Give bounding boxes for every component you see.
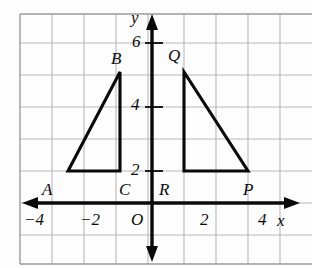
y-tick-label-4: 4 <box>131 96 140 113</box>
y-tick-label-2: 2 <box>131 161 140 178</box>
x-tick-label-neg2: −2 <box>80 211 100 228</box>
vertex-label-c: C <box>119 181 130 198</box>
vertex-label-p: P <box>243 181 253 198</box>
vertex-label-a: A <box>42 181 52 198</box>
x-axis-name-label: x <box>277 212 285 229</box>
vertex-label-q: Q <box>168 47 180 64</box>
vertex-label-r: R <box>159 181 169 198</box>
y-tick-label-6: 6 <box>132 33 141 50</box>
x-tick-label-4: 4 <box>258 211 267 228</box>
origin-label: O <box>131 211 143 228</box>
x-tick-label-neg4: −4 <box>24 211 44 228</box>
vertex-label-b: B <box>111 50 121 67</box>
y-axis-name-label: y <box>131 9 139 26</box>
geometry-figure-canvas: A B C R Q P 6 4 2 −4 −2 O 2 4 x y <box>0 0 312 268</box>
x-tick-label-2: 2 <box>200 211 209 228</box>
